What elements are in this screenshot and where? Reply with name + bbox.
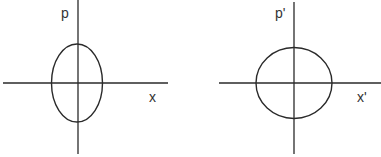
right-p-label: p'	[275, 5, 285, 21]
left-x-label: x	[149, 89, 156, 105]
phase-space-diagram: p x p' x'	[0, 0, 381, 157]
right-panel: p' x'	[219, 2, 381, 154]
left-p-label: p	[61, 5, 69, 21]
right-x-label: x'	[357, 89, 367, 105]
left-panel: p x	[3, 0, 168, 154]
